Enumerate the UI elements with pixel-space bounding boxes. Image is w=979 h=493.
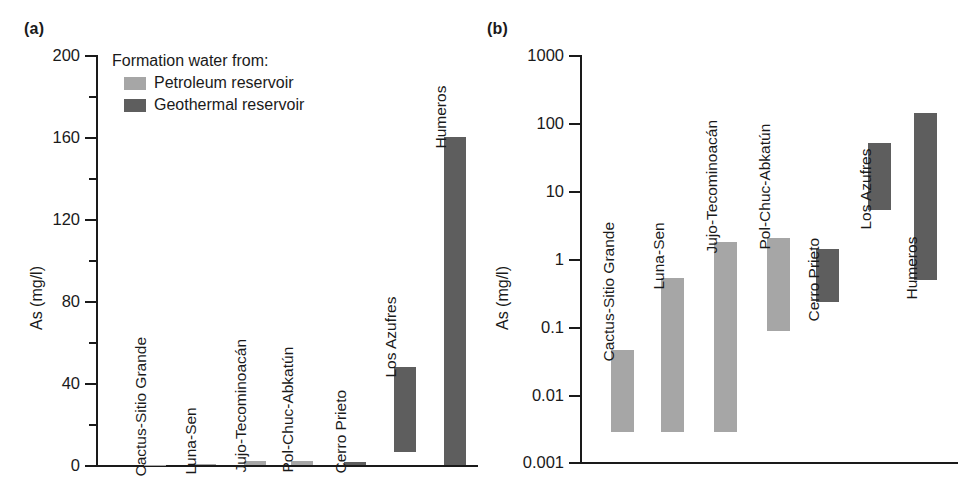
panel-b-tick-1 (569, 259, 581, 261)
panel-a-tick-200 (85, 55, 97, 57)
panel-a-minor-tick-60 (89, 342, 97, 344)
panel-b-x-axis (580, 462, 958, 464)
bar-label-b-cerro-prieto: Cerro Prieto (806, 238, 822, 322)
bar-label-a-humeros: Humeros (433, 86, 449, 149)
bar-label-a-cactus-sitio-grande: Cactus-Sitio Grande (133, 337, 149, 477)
panel-a-ticklabel-200: 200 (30, 47, 80, 64)
panel-a-ticklabel-120: 120 (30, 211, 80, 228)
panel-a-tick-120 (85, 219, 97, 221)
panel-b-ticklabel-0p01: 0.01 (496, 387, 564, 404)
bar-label-b-cactus-sitio-grande: Cactus-Sitio Grande (601, 222, 617, 362)
bar-label-a-cerro-prieto: Cerro Prieto (333, 390, 349, 474)
legend-swatch-geothermal (124, 99, 146, 112)
panel-a-tag: (a) (24, 20, 44, 38)
bar-label-a-pol-chuc-abkatun: Pol-Chuc-Abkatún (280, 347, 296, 473)
bar-label-a-jujo-tecominoacan: Jujo-Tecominoacán (233, 339, 249, 473)
legend-title: Formation water from: (112, 52, 268, 70)
bar-label-a-los-azufres: Los Azufres (383, 297, 399, 378)
panel-a-y-axis-label: As (mg/l) (28, 266, 46, 330)
panel-a-tick-0 (85, 465, 97, 467)
bar-a-humeros (444, 137, 466, 465)
panel-a-tick-40 (85, 383, 97, 385)
bar-label-b-pol-chuc-abkatun: Pol-Chuc-Abkatún (757, 124, 773, 250)
bar-label-b-humeros: Humeros (904, 237, 920, 300)
panel-b-tick-1000 (569, 55, 581, 57)
panel-b-tick-0p01 (569, 395, 581, 397)
panel-b-y-axis-label: As (mg/l) (494, 266, 512, 330)
bar-label-b-los-azufres: Los Azufres (858, 149, 874, 230)
legend-label-petroleum: Petroleum reservoir (154, 74, 294, 92)
legend-item-petroleum: Petroleum reservoir (124, 74, 354, 92)
panel-b-tag: (b) (487, 20, 508, 38)
bar-b-pol-chuc-abkatun (767, 238, 790, 331)
bar-label-b-luna-sen: Luna-Sen (651, 222, 667, 289)
panel-b-ticklabel-10: 10 (496, 183, 564, 200)
legend-swatch-petroleum (124, 77, 146, 90)
panel-b-ticklabel-0p001: 0.001 (490, 454, 564, 471)
panel-b-tick-10 (569, 191, 581, 193)
panel-a-minor-tick-100 (89, 260, 97, 262)
bar-b-cactus-sitio-grande (611, 350, 634, 432)
bar-b-luna-sen (661, 278, 684, 432)
panel-b-ticklabel-1000: 1000 (496, 47, 564, 64)
legend-item-geothermal: Geothermal reservoir (124, 96, 364, 114)
panel-a-minor-tick-180 (89, 96, 97, 98)
panel-a-tick-80 (85, 301, 97, 303)
panel-b-ticklabel-100: 100 (496, 115, 564, 132)
panel-a-tick-160 (85, 137, 97, 139)
legend-label-geothermal: Geothermal reservoir (154, 96, 304, 114)
panel-a-ticklabel-0: 0 (30, 457, 80, 474)
bar-label-a-luna-sen: Luna-Sen (183, 407, 199, 474)
panel-a-ticklabel-160: 160 (30, 129, 80, 146)
panel-b-tick-100 (569, 123, 581, 125)
panel-a-minor-tick-20 (89, 424, 97, 426)
bar-b-jujo-tecominoacan (714, 242, 737, 432)
bar-label-b-jujo-tecominoacan: Jujo-Tecominoacán (704, 120, 720, 254)
panel-b-tick-0p1 (569, 327, 581, 329)
panel-a-minor-tick-140 (89, 178, 97, 180)
bar-a-los-azufres (394, 367, 416, 453)
panel-b-tick-0p001 (569, 462, 581, 464)
panel-a-ticklabel-40: 40 (30, 375, 80, 392)
figure-arsenic-formation-waters: (a) 200 160 120 80 40 0 As (mg/l) Format… (0, 0, 979, 493)
